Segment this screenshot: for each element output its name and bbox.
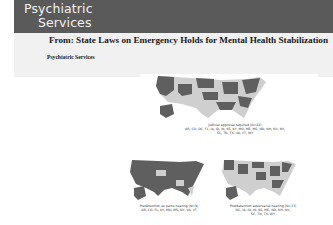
map-alaska (160, 104, 174, 118)
map-highlight (252, 162, 264, 168)
brand-line-1: Psychiatric (24, 1, 93, 16)
caption-judicial-approval: Judicial approval required (N=22) AR, CO… (160, 123, 310, 135)
us-map-predetention-hearing (128, 158, 210, 202)
journal-logo[interactable]: Psychiatric Services (24, 2, 93, 30)
caption-states-cont: SC, TN, TX, VA, VT, WY (160, 131, 310, 135)
map-highlight (238, 164, 248, 174)
journal-header: Psychiatric Services (14, 0, 333, 33)
caption-states: AR, CO, FL, KY, MO, MS, NY, VA, VT (126, 208, 212, 212)
article-title: From: State Laws on Emergency Holds for … (14, 35, 333, 45)
article-info-panel: From: State Laws on Emergency Holds for … (14, 33, 333, 77)
us-map-postdetention-hearing (220, 158, 302, 202)
map-alaska (226, 186, 238, 200)
map-highlight-central (202, 92, 218, 100)
caption-states-cont: SC, TN, TX, WY (218, 212, 308, 216)
figure-maps: Judicial approval required (N=22) AR, CO… (140, 74, 318, 224)
map-light-area (176, 180, 184, 186)
map-highlight (270, 166, 280, 176)
map-highlight (224, 160, 234, 170)
us-map-judicial-approval (152, 74, 272, 122)
map-highlight-plains (196, 78, 214, 88)
caption-predetention-hearing: Predetention ex parte hearing (N=9) AR, … (126, 204, 212, 212)
brand-line-2: Services (24, 16, 93, 30)
map-light-area (156, 170, 166, 176)
source-label: Psychiatric Services (47, 54, 95, 60)
map-alaska (134, 186, 146, 200)
map-highlight (256, 172, 266, 180)
map-highlight-midwest (222, 82, 238, 94)
caption-postdetention-hearing: Postdetention adversarial hearing (N=13)… (218, 204, 308, 216)
